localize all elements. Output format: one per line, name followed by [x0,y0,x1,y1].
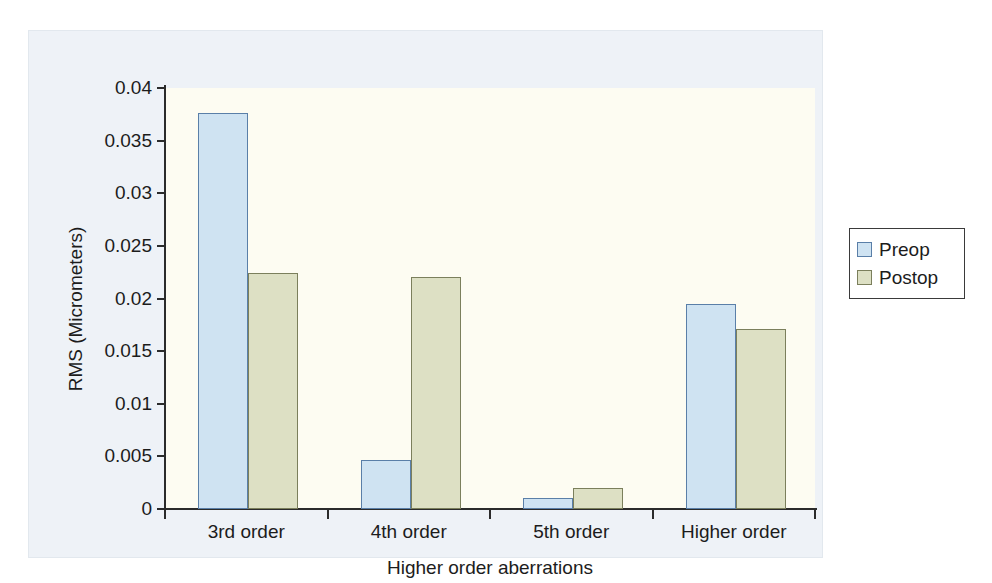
y-axis-tick-label: 0.03 [32,182,152,204]
x-axis-category-label: 3rd order [165,521,328,543]
y-axis-tick [157,245,165,247]
bar-postop-4th-order [411,277,461,509]
figure-panel: 00.0050.010.0150.020.0250.030.0350.04 RM… [28,30,823,558]
y-axis-tick [157,298,165,300]
legend-item-postop: Postop [857,263,964,291]
y-axis-tick [157,192,165,194]
y-axis-tick-label: 0 [32,498,152,520]
x-axis-tick [327,510,329,519]
bar-postop-higher-order [736,329,786,509]
y-axis-title: RMS (Micrometers) [65,144,87,474]
legend-swatch-postop [857,270,872,285]
y-axis-tick-label: 0.04 [32,77,152,99]
bar-preop-4th-order [361,460,411,509]
bar-preop-3rd-order [198,113,248,509]
x-axis-title: Higher order aberrations [165,557,815,579]
x-axis-category-label: 5th order [490,521,653,543]
x-axis-category-label: Higher order [652,521,815,543]
y-axis-tick [157,455,165,457]
y-axis-tick-label: 0.025 [32,235,152,257]
x-axis-tick [814,510,816,519]
legend-item-preop: Preop [857,235,964,263]
legend-label-preop: Preop [879,240,930,259]
y-axis-tick [157,140,165,142]
y-axis-tick-label: 0.015 [32,340,152,362]
legend-swatch-preop [857,242,872,257]
x-axis-tick [489,510,491,519]
y-axis-tick-label: 0.01 [32,393,152,415]
legend: Preop Postop [849,228,965,299]
bar-preop-5th-order [523,498,573,509]
bar-preop-higher-order [686,304,736,509]
y-axis-tick-label: 0.005 [32,445,152,467]
y-axis-tick [157,87,165,89]
y-axis-tick-label: 0.02 [32,288,152,310]
x-axis-tick [164,510,166,519]
bar-postop-3rd-order [248,273,298,509]
bar-postop-5th-order [573,488,623,509]
y-axis-tick [157,350,165,352]
y-axis-tick [157,403,165,405]
y-axis-tick-label: 0.035 [32,130,152,152]
x-axis-category-label: 4th order [327,521,490,543]
legend-label-postop: Postop [879,268,938,287]
x-axis-tick [652,510,654,519]
